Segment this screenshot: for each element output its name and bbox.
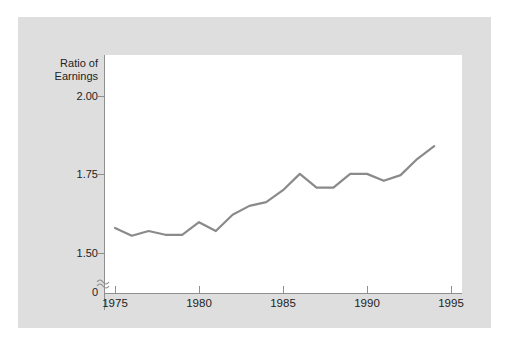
series-layer — [18, 17, 491, 328]
chart-figure: Ratio of Earnings 2.00 1.75 1.50 0 1975 … — [18, 17, 491, 328]
data-series-line — [115, 146, 434, 235]
